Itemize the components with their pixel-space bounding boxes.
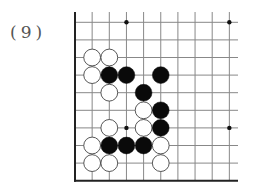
white-stone xyxy=(101,155,118,172)
star-point xyxy=(124,20,128,24)
white-stone xyxy=(101,49,118,66)
white-stone xyxy=(84,49,101,66)
black-stone xyxy=(101,137,118,154)
black-stone xyxy=(118,67,135,84)
white-stone xyxy=(84,67,101,84)
star-point xyxy=(227,126,231,130)
go-board xyxy=(0,0,258,188)
star-point xyxy=(124,126,128,130)
white-stone xyxy=(84,137,101,154)
black-stone xyxy=(135,84,152,101)
black-stone xyxy=(101,67,118,84)
black-stone xyxy=(152,120,169,137)
white-stone xyxy=(152,155,169,172)
black-stone xyxy=(118,137,135,154)
white-stone xyxy=(135,102,152,119)
white-stone xyxy=(101,84,118,101)
white-stone xyxy=(84,155,101,172)
star-point xyxy=(227,20,231,24)
white-stone xyxy=(101,120,118,137)
black-stone xyxy=(135,137,152,154)
white-stone xyxy=(152,137,169,154)
black-stone xyxy=(152,102,169,119)
white-stone xyxy=(135,120,152,137)
black-stone xyxy=(152,67,169,84)
